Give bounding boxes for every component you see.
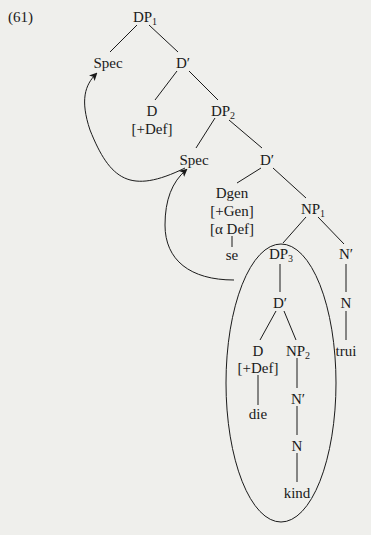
node-np1: NP1: [301, 201, 325, 217]
node-die: die: [249, 406, 267, 422]
node-d3: D: [253, 343, 264, 359]
node-dgen: Dgen: [216, 185, 249, 201]
node-dp2: DP2: [211, 103, 235, 119]
node-se: se: [226, 247, 239, 263]
node-kind: kind: [284, 485, 311, 501]
node-nbar1: N′: [339, 246, 353, 262]
node-spec2: Spec: [179, 152, 208, 168]
node-d1: D: [147, 103, 158, 119]
node-dp1: DP1: [133, 9, 157, 25]
dp3-ellipse: [226, 244, 336, 522]
node-dbar1: D′: [176, 55, 190, 71]
node-trui: trui: [336, 343, 357, 359]
node-n1: N: [341, 295, 352, 311]
node-dp3: DP3: [269, 246, 293, 262]
node-n2: N: [292, 438, 303, 454]
node-d3-feature: [+Def]: [238, 360, 279, 376]
node-dbar3: D′: [273, 295, 287, 311]
node-nbar2: N′: [291, 391, 305, 407]
node-dbar2: D′: [260, 152, 274, 168]
node-dgen-feature-def: [α Def]: [210, 221, 254, 237]
node-spec1: Spec: [93, 55, 122, 71]
tree-lines: [0, 0, 371, 535]
node-dgen-feature-gen: [+Gen]: [210, 203, 253, 219]
node-d1-feature: [+Def]: [132, 121, 173, 137]
node-np2: NP2: [286, 343, 310, 359]
